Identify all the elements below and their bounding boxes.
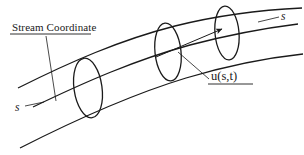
tube-bottom-boundary [20, 54, 303, 148]
s-left-leader [25, 102, 44, 106]
tube-top-boundary [18, 8, 302, 88]
velocity-label: u(s,t) [211, 70, 237, 83]
tube-centerline [33, 24, 298, 107]
velocity-leader [178, 52, 209, 79]
stream-coordinate-leader [46, 36, 56, 101]
stream-tube-diagram: Stream Coordinate u(s,t) s s [0, 0, 304, 155]
velocity-vector-arrow [156, 29, 222, 57]
s-label-right: s [281, 11, 285, 23]
s-right-leader [258, 17, 279, 22]
velocity-arrow-group [156, 29, 222, 57]
stream-coordinate-label: Stream Coordinate [12, 22, 97, 33]
s-label-left: s [15, 102, 19, 114]
